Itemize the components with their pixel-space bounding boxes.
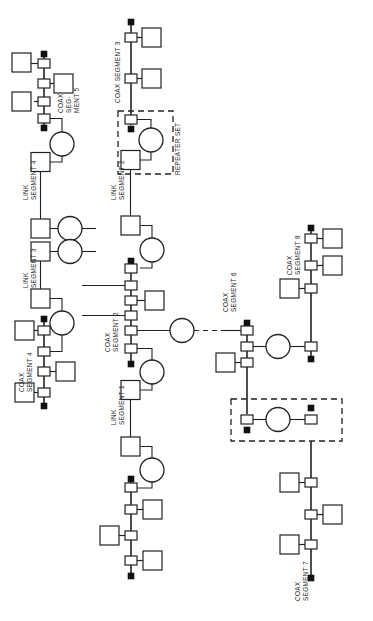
segment-link-segment-4: LINK SEGMENT 4 <box>22 160 96 241</box>
repeater-drop-cable <box>137 349 152 361</box>
mau-tap <box>305 342 317 351</box>
mau-tap <box>38 79 50 88</box>
mau-tap <box>125 531 137 540</box>
mau-tap <box>241 326 253 335</box>
repeater-box <box>121 437 140 456</box>
center-repeater-circle <box>170 319 194 343</box>
repeater-circle <box>58 217 82 241</box>
segment-coax-segment-7: COAX SEGMENT 7 <box>280 441 342 601</box>
label-coax-segment-8-line1: COAX <box>286 255 293 275</box>
label-link-segment-2-line2: SEGMENT 2 <box>118 160 125 200</box>
mau-tap <box>125 115 137 124</box>
dte-box <box>12 53 31 72</box>
label-coax-segment-6-line1: COAX <box>222 292 229 312</box>
mau-tap <box>125 556 137 565</box>
terminator-icon <box>128 361 134 367</box>
topology-canvas: COAX SEG- MENT 5 LINK SEGMENT 4 LINK SEG… <box>0 0 373 621</box>
label-link-segment-2-line1: LINK <box>110 184 117 200</box>
mau-tap <box>241 415 253 424</box>
dte-box <box>323 229 342 248</box>
repeater-link-cable <box>140 226 152 239</box>
segment-coax-segment-2: COAX SEGMENT 2 <box>82 258 170 390</box>
repeater-circle <box>58 240 82 264</box>
mau-tap <box>305 234 317 243</box>
mau-tap <box>38 97 50 106</box>
repeater-box <box>31 289 50 308</box>
terminator-icon <box>128 19 134 25</box>
label-coax-segment-2-line2: SEGMENT 2 <box>112 312 119 352</box>
repeater-set-upper: REPEATER SET <box>118 111 181 175</box>
repeater-circle <box>140 458 164 482</box>
dte-box <box>142 69 161 88</box>
terminator-icon <box>41 316 47 322</box>
label-coax-segment-4-line1: COAX <box>18 372 25 392</box>
label-coax-segment-2-line1: COAX <box>104 332 111 352</box>
segment-coax-segment-1 <box>100 476 162 579</box>
dte-box <box>145 291 164 310</box>
repeater-circle <box>50 132 74 156</box>
label-coax-segment-5-line3: MENT 5 <box>73 87 80 113</box>
mau-tap <box>38 388 50 397</box>
dte-box <box>323 256 342 275</box>
dte-box <box>143 500 162 519</box>
terminator-icon <box>244 427 250 433</box>
mau-tap <box>241 342 253 351</box>
repeater-circle <box>266 408 290 432</box>
mau-tap <box>125 296 137 305</box>
mau-tap <box>125 311 137 320</box>
label-repeater-set: REPEATER SET <box>174 123 181 175</box>
terminator-icon <box>41 51 47 57</box>
center-trunk <box>170 319 222 343</box>
repeater-circle <box>140 360 164 384</box>
mau-tap <box>125 74 137 83</box>
mau-tap <box>125 344 137 353</box>
terminator-icon <box>41 403 47 409</box>
dte-box <box>54 74 73 93</box>
repeater-link-cable <box>140 384 152 390</box>
dte-box <box>280 279 299 298</box>
label-link-segment-3-line1: LINK <box>22 272 29 288</box>
mau-tap <box>125 505 137 514</box>
repeater-drop-cable <box>50 119 62 133</box>
mau-tap <box>125 483 137 492</box>
network-topology-diagram: COAX SEG- MENT 5 LINK SEGMENT 4 LINK SEG… <box>0 0 373 621</box>
dte-box <box>15 321 34 340</box>
repeater-drop-cable <box>50 335 62 352</box>
dte-box <box>142 28 161 47</box>
label-coax-segment-5-line2: SEG- <box>65 96 72 113</box>
dte-box <box>216 353 235 372</box>
mau-tap <box>305 261 317 270</box>
mau-tap <box>125 33 137 42</box>
mau-tap <box>305 478 317 487</box>
terminator-icon <box>128 126 134 132</box>
label-coax-segment-3: COAX SEGMENT 3 <box>114 41 121 103</box>
mau-tap <box>305 284 317 293</box>
repeater-drop-cable <box>137 120 151 129</box>
mau-tap <box>305 415 317 424</box>
repeater-link-cable <box>50 299 62 312</box>
dte-box <box>323 505 342 524</box>
mau-tap <box>125 281 137 290</box>
label-coax-segment-5-line1: COAX <box>57 93 64 113</box>
mau-tap <box>125 264 137 273</box>
label-coax-segment-8-line2: SEGMENT 8 <box>294 235 301 275</box>
mau-tap <box>38 114 50 123</box>
mau-tap <box>38 367 50 376</box>
segment-coax-segment-5: COAX SEG- MENT 5 <box>12 51 80 172</box>
dte-box <box>280 535 299 554</box>
repeater-circle <box>50 311 74 335</box>
segment-link-segment-1: LINK SEGMENT 1 <box>110 381 164 489</box>
mau-tap <box>38 326 50 335</box>
mau-tap <box>305 510 317 519</box>
label-link-segment-4-line2: SEGMENT 4 <box>30 160 37 200</box>
repeater-link-cable <box>137 482 152 488</box>
repeater-box <box>121 216 140 235</box>
dte-box <box>280 473 299 492</box>
terminator-icon <box>128 476 134 482</box>
label-coax-segment-4-line2: SEGMENT 4 <box>26 352 33 392</box>
repeater-link-cable <box>140 152 151 160</box>
repeater-link-cable <box>140 262 152 268</box>
dte-box <box>56 362 75 381</box>
mau-tap <box>38 59 50 68</box>
segment-coax-segment-3: COAX SEGMENT 3 <box>114 19 161 125</box>
